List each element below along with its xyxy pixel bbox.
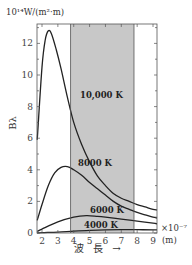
x-axis-exponent: ×10⁻⁷ (161, 224, 187, 233)
x-axis-title: 波 長 → (74, 244, 124, 254)
x-tick-label: 2 (39, 236, 45, 246)
y-tick-label: 0 (27, 228, 33, 238)
x-axis-unit: (m) (162, 236, 177, 245)
curve-label-10000k: 10,000 K (80, 90, 123, 100)
x-tick-label: 3 (55, 236, 61, 246)
y-axis-label: Bλ (8, 116, 18, 130)
x-tick-label: 9 (150, 236, 156, 246)
y-tick-label: 4 (27, 165, 33, 175)
visible-band (71, 24, 134, 233)
curve-label-4000k: 4000 K (84, 220, 118, 230)
y-tick-label: 6 (27, 133, 33, 143)
y-tick-label: 8 (27, 102, 33, 112)
x-tick-label: 8 (134, 236, 140, 246)
y-tick-label: 12 (22, 38, 33, 48)
y-tick-label: 2 (27, 196, 33, 206)
curve-label-6000k: 6000 K (90, 205, 124, 215)
y-tick-label: 10 (22, 70, 34, 80)
y-axis-unit: 10¹⁴W/(m²·m) (6, 8, 64, 17)
curve-label-8000k: 8000 K (78, 158, 112, 168)
